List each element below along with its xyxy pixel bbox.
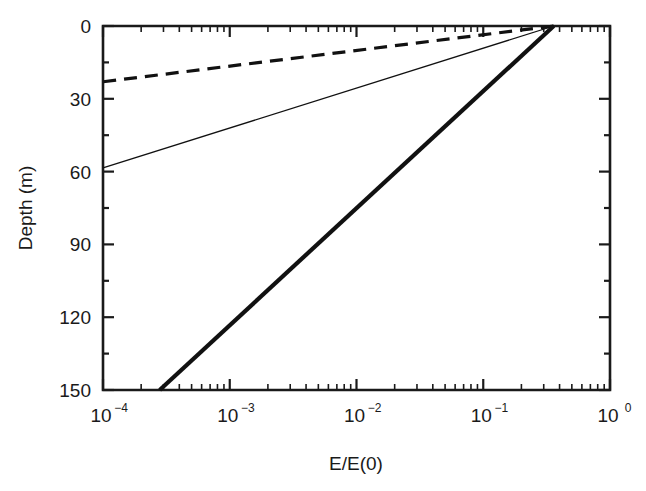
x-tick-label-mantissa: 10 (344, 405, 365, 426)
y-tick-label: 90 (70, 234, 91, 255)
y-axis-title: Depth (m) (15, 166, 36, 250)
x-axis-title: E/E(0) (329, 453, 383, 474)
depth-attenuation-chart: 10−410−310−210−1100 0306090120150 E/E(0)… (0, 0, 646, 491)
y-tick-label: 60 (70, 162, 91, 183)
x-tick-label-mantissa: 10 (90, 405, 111, 426)
x-tick-label-exponent: −1 (494, 401, 508, 415)
y-tick-label: 120 (59, 307, 91, 328)
x-tick-label-mantissa: 10 (597, 405, 618, 426)
y-tick-label: 150 (59, 380, 91, 401)
y-tick-label: 30 (70, 89, 91, 110)
x-tick-label-exponent: −4 (114, 401, 128, 415)
x-tick-label-mantissa: 10 (217, 405, 238, 426)
x-tick-label-exponent: −3 (241, 401, 255, 415)
x-tick-label-mantissa: 10 (471, 405, 492, 426)
y-tick-label: 0 (80, 16, 91, 37)
x-tick-label-exponent: −2 (368, 401, 382, 415)
x-tick-label-exponent: 0 (625, 401, 632, 415)
